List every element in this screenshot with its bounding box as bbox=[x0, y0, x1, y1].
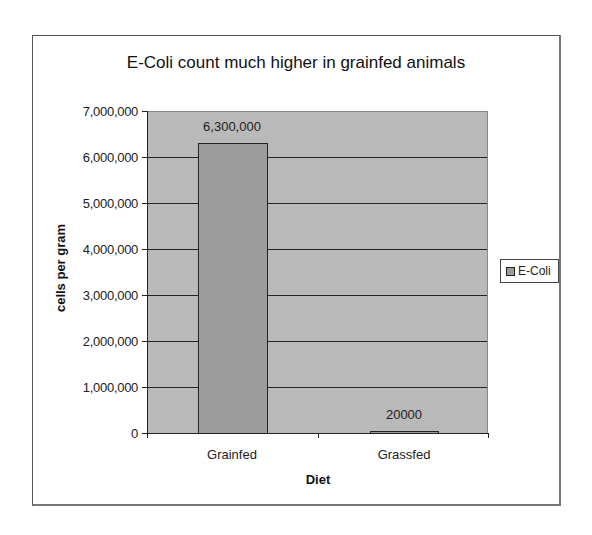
y-tick bbox=[142, 387, 147, 388]
x-tick bbox=[488, 433, 489, 438]
y-axis-line bbox=[147, 111, 148, 433]
y-tick bbox=[142, 249, 147, 250]
y-tick bbox=[142, 157, 147, 158]
y-tick-label: 3,000,000 bbox=[60, 288, 138, 303]
y-tick-label: 4,000,000 bbox=[60, 242, 138, 257]
data-label-grassfed: 20000 bbox=[354, 407, 454, 422]
x-category-grassfed: Grassfed bbox=[344, 447, 464, 462]
legend-label: E-Coli bbox=[518, 264, 551, 278]
y-tick bbox=[142, 203, 147, 204]
y-tick-label: 7,000,000 bbox=[60, 104, 138, 119]
y-tick-label: 0 bbox=[60, 426, 138, 441]
y-tick bbox=[142, 295, 147, 296]
x-axis-title: Diet bbox=[268, 472, 368, 487]
legend: E-Coli bbox=[500, 259, 559, 283]
y-tick bbox=[142, 341, 147, 342]
y-tick-label: 2,000,000 bbox=[60, 334, 138, 349]
bar-grassfed bbox=[370, 431, 439, 434]
x-tick bbox=[147, 433, 148, 438]
x-tick bbox=[318, 433, 319, 438]
y-tick-label: 5,000,000 bbox=[60, 196, 138, 211]
chart-title: E-Coli count much higher in grainfed ani… bbox=[0, 53, 592, 73]
y-axis-title: cells per gram bbox=[53, 224, 68, 312]
x-category-grainfed: Grainfed bbox=[172, 447, 292, 462]
y-tick-label: 1,000,000 bbox=[60, 380, 138, 395]
bar-grainfed bbox=[198, 143, 268, 434]
y-tick-label: 6,000,000 bbox=[60, 150, 138, 165]
legend-swatch-icon bbox=[506, 267, 515, 276]
data-label-grainfed: 6,300,000 bbox=[182, 119, 282, 134]
y-tick bbox=[142, 111, 147, 112]
